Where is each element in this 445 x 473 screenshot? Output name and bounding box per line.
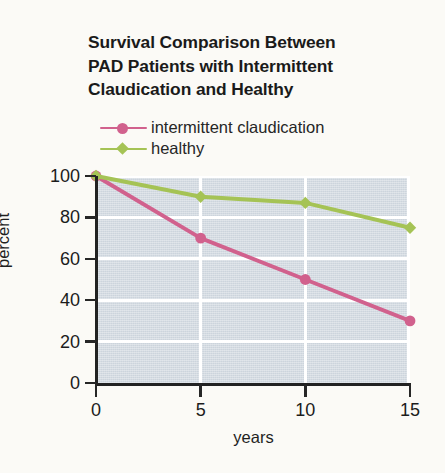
chart-figure: Survival Comparison Between PAD Patients…	[0, 0, 445, 473]
gridline-vertical	[199, 176, 202, 383]
gridline-horizontal	[96, 340, 410, 343]
x-tick-mark	[304, 384, 306, 397]
gridline-horizontal	[96, 216, 410, 219]
y-tick-mark	[85, 299, 96, 301]
x-tick-mark	[409, 384, 411, 397]
y-tick-mark	[85, 175, 96, 177]
y-tick-label: 60	[36, 250, 80, 268]
gridline-vertical	[407, 176, 410, 383]
gridline-horizontal	[96, 257, 410, 260]
y-tick-label: 100	[36, 167, 80, 185]
y-tick-label: 40	[36, 291, 80, 309]
x-tick-mark	[95, 384, 97, 397]
plot-panel	[96, 176, 410, 383]
x-tick-label: 10	[295, 400, 315, 421]
plot-container: 020406080100 051015 years percent	[0, 0, 445, 473]
gridline-horizontal	[96, 176, 410, 178]
gridline-vertical	[304, 176, 307, 383]
x-tick-label: 15	[400, 400, 420, 421]
y-axis-label: percent	[0, 213, 13, 268]
gridline-horizontal	[96, 299, 410, 302]
y-tick-mark	[85, 216, 96, 218]
x-axis-label: years	[96, 428, 411, 447]
x-tick-mark	[199, 384, 201, 397]
y-tick-mark	[85, 340, 96, 342]
x-tick-label: 0	[91, 400, 101, 421]
y-tick-label: 20	[36, 333, 80, 351]
x-axis-line	[96, 383, 411, 386]
x-tick-label: 5	[196, 400, 206, 421]
y-tick-label: 0	[36, 374, 80, 392]
y-tick-mark	[85, 258, 96, 260]
y-tick-label: 80	[36, 208, 80, 226]
y-axis-line	[95, 176, 98, 385]
